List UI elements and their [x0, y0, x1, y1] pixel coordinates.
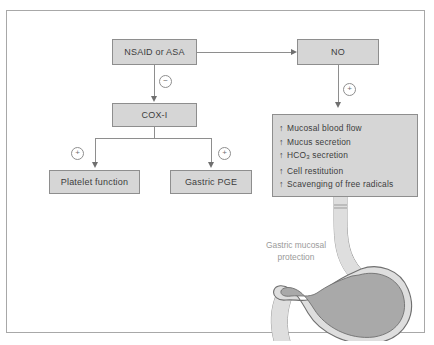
symbol-stimulation-pge: + [218, 147, 231, 160]
connector-cox1-to-pge [211, 138, 212, 163]
illustration-caption: Gastric mucosal protection [250, 239, 342, 263]
node-nitric-oxide: NO [297, 39, 379, 65]
node-nsaid-or-asa: NSAID or ASA [112, 39, 197, 65]
effects-list-item-label: Scavenging of free radicals [287, 179, 393, 189]
node-platelet-function: Platelet function [49, 170, 140, 194]
effects-list-item: ↑Cell restitution [279, 165, 417, 179]
connector-cox1-branch-bar [95, 138, 212, 139]
node-gastric-pge: Gastric PGE [170, 170, 252, 194]
up-arrow-icon: ↑ [279, 178, 287, 192]
effects-list-item: ↑HCO3 secretion [279, 149, 417, 165]
node-nsaid-label: NSAID or ASA [124, 47, 184, 57]
up-arrow-icon: ↑ [279, 165, 287, 179]
caption-line-1: Gastric mucosal [250, 239, 342, 251]
effects-list-item-label: Mucosal blood flow [287, 123, 362, 133]
arrowhead-to-platelet [92, 162, 98, 168]
node-gastric-pge-label: Gastric PGE [185, 177, 237, 187]
up-arrow-icon: ↑ [279, 136, 287, 150]
stomach-illustration [250, 197, 428, 341]
connector-no-to-effects [338, 65, 339, 103]
node-platelet-label: Platelet function [61, 177, 128, 187]
effects-list-item-label: Mucus secretion [287, 137, 351, 147]
node-cox-1-label: COX-I [141, 110, 167, 120]
symbol-inhibition: − [159, 75, 172, 88]
node-no-label: NO [331, 47, 345, 57]
symbol-stimulation-no: + [343, 83, 356, 96]
diagram-frame: NSAID or ASA NO COX-I Platelet function … [6, 10, 425, 333]
arrowhead-no-to-effects [335, 102, 341, 108]
up-arrow-icon: ↑ [279, 122, 287, 136]
connector-nsaid-to-no [197, 52, 293, 53]
effects-list-item: ↑Scavenging of free radicals [279, 178, 417, 192]
arrowhead-nsaid-to-no [291, 49, 297, 55]
effects-list-item-label: HCO3 secretion [287, 150, 348, 160]
symbol-stimulation-platelet: + [71, 147, 84, 160]
caption-line-2: protection [250, 251, 342, 263]
effects-list-item: ↑Mucosal blood flow [279, 122, 417, 136]
node-mucosal-effects-list: ↑Mucosal blood flow↑Mucus secretion↑HCO3… [272, 114, 418, 197]
up-arrow-icon: ↑ [279, 149, 287, 163]
node-cox-1: COX-I [112, 103, 197, 127]
effects-list-item: ↑Mucus secretion [279, 136, 417, 150]
connector-cox1-to-platelet [95, 138, 96, 163]
arrowhead-to-pge [208, 162, 214, 168]
effects-list-item-label: Cell restitution [287, 166, 343, 176]
connector-nsaid-to-cox1 [154, 65, 155, 97]
arrowhead-nsaid-to-cox1 [151, 96, 157, 102]
